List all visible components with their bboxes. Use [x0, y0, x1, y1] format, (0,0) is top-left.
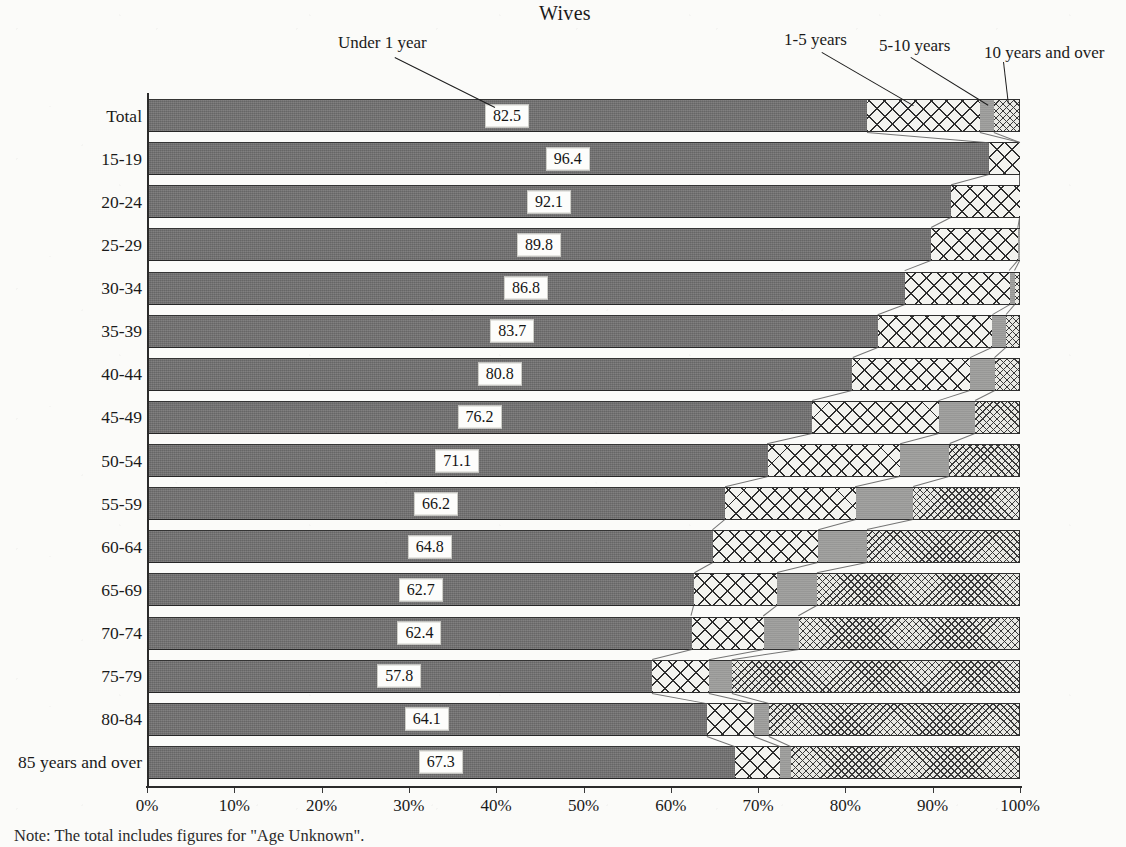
data-value-label: 86.8 — [504, 277, 548, 300]
series-connector-line — [767, 433, 812, 444]
y-axis-category-label: 25-29 — [0, 237, 142, 255]
series-connector-line — [852, 347, 878, 358]
y-axis-category-label: Total — [0, 108, 142, 126]
bar-segment — [900, 444, 949, 477]
data-value-label: 62.4 — [397, 622, 441, 645]
bar-segment — [780, 746, 791, 779]
bar-segment — [852, 358, 970, 391]
y-axis-category-label: 15-19 — [0, 151, 142, 169]
data-value-label: 67.3 — [419, 751, 463, 774]
y-axis-category-label: 35-39 — [0, 323, 142, 341]
chart-note: Note: The total includes figures for "Ag… — [14, 826, 364, 846]
series-connector-line — [712, 519, 725, 530]
bar-row: 67.3 — [147, 746, 1020, 779]
bar-segment — [856, 487, 914, 520]
series-connector-line — [651, 649, 691, 660]
bar-segment — [707, 703, 754, 736]
bar-segment — [732, 660, 1020, 693]
bar-segment — [939, 401, 975, 434]
series-connector-line — [994, 347, 1006, 358]
series-connector-line — [970, 347, 992, 358]
x-axis-tick-label: 60% — [655, 796, 686, 816]
y-axis-category-label: 80-84 — [0, 711, 142, 729]
y-axis-category-label: 85 years and over — [0, 754, 142, 772]
data-value-label: 64.1 — [405, 708, 449, 731]
bar-segment — [905, 272, 1010, 305]
bar-segment — [754, 703, 770, 736]
bar-segment — [949, 444, 1020, 477]
bar-segment — [992, 315, 1006, 348]
callout-label-5-10-years: 5-10 years — [879, 36, 950, 56]
y-axis-category-label: 20-24 — [0, 194, 142, 212]
bar-segment — [725, 487, 856, 520]
x-axis-tick-label: 80% — [830, 796, 861, 816]
bar-segment — [970, 358, 994, 391]
callout-label-1-5-years: 1-5 years — [784, 30, 847, 50]
y-axis-line — [147, 93, 149, 787]
bar-segment — [1018, 228, 1020, 261]
bar-row: 96.4 — [147, 142, 1020, 175]
bar-row: 76.2 — [147, 401, 1020, 434]
bar-row: 57.8 — [147, 660, 1020, 693]
bar-segment — [878, 315, 992, 348]
y-axis-category-label: 70-74 — [0, 625, 142, 643]
bar-segment — [913, 487, 1020, 520]
bar-row: 82.5 — [147, 99, 1020, 132]
series-connector-line — [691, 606, 695, 616]
bar-segment — [777, 573, 817, 606]
data-value-label: 89.8 — [517, 233, 561, 256]
series-connector-line — [1019, 175, 1020, 185]
bar-segment — [1015, 272, 1020, 305]
x-axis-line — [146, 786, 1022, 788]
series-connector-line — [1019, 218, 1020, 228]
y-axis-category-label: 45-49 — [0, 409, 142, 427]
bar-segment — [694, 573, 777, 606]
bar-segment — [799, 617, 1020, 650]
bar-segment — [1006, 315, 1020, 348]
series-connector-line — [974, 390, 995, 401]
data-value-label: 62.7 — [399, 578, 443, 601]
bar-row: 80.8 — [147, 358, 1020, 391]
series-connector-line — [931, 217, 952, 228]
x-axis-tick-label: 10% — [219, 796, 250, 816]
bar-row: 89.8 — [147, 228, 1020, 261]
data-value-label: 82.5 — [485, 104, 529, 127]
chart-title-text: Wives — [539, 2, 591, 24]
series-connector-line — [799, 606, 818, 617]
series-connector-line — [867, 519, 913, 530]
series-connector-line — [732, 649, 799, 660]
bar-segment — [817, 573, 1020, 606]
bar-segment — [769, 703, 1020, 736]
bar-segment — [713, 530, 819, 563]
x-axis-tick-label: 0% — [136, 796, 159, 816]
bar-segment — [818, 530, 867, 563]
x-axis-tick-label: 50% — [568, 796, 599, 816]
y-axis-category-label: 40-44 — [0, 366, 142, 384]
y-axis-category-label: 30-34 — [0, 280, 142, 298]
data-value-label: 64.8 — [408, 535, 452, 558]
bar-segment — [768, 444, 901, 477]
bar-segment — [791, 746, 1020, 779]
bar-row: 92.1 — [147, 185, 1020, 218]
series-connector-line — [951, 174, 989, 185]
series-connector-line — [900, 433, 939, 444]
bar-segment — [709, 660, 732, 693]
plot-area: 82.596.492.189.886.883.780.876.271.166.2… — [147, 95, 1020, 785]
x-axis-tick-label: 100% — [1000, 796, 1040, 816]
data-value-label: 92.1 — [527, 190, 571, 213]
bar-segment — [735, 746, 780, 779]
bar-row: 64.8 — [147, 530, 1020, 563]
data-value-label: 96.4 — [546, 147, 590, 170]
series-connector-line — [939, 390, 971, 401]
data-value-label: 66.2 — [414, 492, 458, 515]
x-axis-tick-label: 40% — [481, 796, 512, 816]
x-axis-tick-label: 20% — [306, 796, 337, 816]
bar-row: 66.2 — [147, 487, 1020, 520]
series-connector-line — [904, 261, 931, 272]
series-connector-line — [694, 562, 713, 573]
data-value-label: 76.2 — [458, 406, 502, 429]
series-connector-line — [725, 476, 768, 487]
bar-segment — [951, 185, 1020, 218]
bar-segment — [692, 617, 764, 650]
bar-row: 64.1 — [147, 703, 1020, 736]
